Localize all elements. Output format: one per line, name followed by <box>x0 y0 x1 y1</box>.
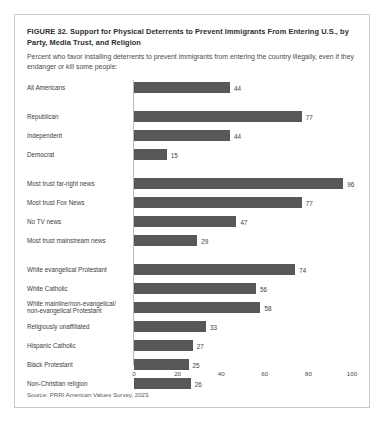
figure-card: FIGURE 32. Support for Physical Deterren… <box>14 14 370 408</box>
bar-category-label: Hispanic Catholic <box>27 342 129 350</box>
figure-subtitle: Percent who favor installing deterrents … <box>27 52 357 73</box>
bar-row: All Americans44 <box>27 80 361 96</box>
bar-value-label: 74 <box>299 266 306 273</box>
bar-category-label: Religiously unaffiliated <box>27 323 129 331</box>
bar-rows: All Americans44Republican77Independent44… <box>27 80 361 395</box>
bar-track: 15 <box>134 147 361 163</box>
x-axis-tick: 100 <box>347 370 357 377</box>
bar-value-label: 96 <box>347 180 354 187</box>
bar <box>134 283 256 294</box>
bar-track: 96 <box>134 176 361 192</box>
bar-row: Republican77 <box>27 109 361 125</box>
bar-category-label: No TV news <box>27 218 129 226</box>
bar <box>134 149 167 160</box>
bar-row: White mainline/non-evangelical/ non-evan… <box>27 300 361 316</box>
bar-row: Religiously unaffiliated33 <box>27 319 361 335</box>
bar-value-label: 47 <box>240 218 247 225</box>
bar-chart: All Americans44Republican77Independent44… <box>27 80 361 385</box>
bar-value-label: 27 <box>197 342 204 349</box>
bar-track: 58 <box>134 300 361 316</box>
bar-row: Independent44 <box>27 128 361 144</box>
plot-area: All Americans44Republican77Independent44… <box>27 80 361 365</box>
bar-track: 27 <box>134 338 361 354</box>
bar-value-label: 29 <box>201 237 208 244</box>
bar-row: No TV news47 <box>27 214 361 230</box>
bar <box>134 82 230 93</box>
bar-value-label: 56 <box>260 285 267 292</box>
bar-track: 29 <box>134 233 361 249</box>
bar-category-label: White Catholic <box>27 285 129 293</box>
bar-track: 77 <box>134 109 361 125</box>
bar <box>134 321 206 332</box>
bar-row: Most trust mainstream news29 <box>27 233 361 249</box>
bar <box>134 340 193 351</box>
bar-value-label: 33 <box>210 323 217 330</box>
bar-category-label: All Americans <box>27 84 129 92</box>
bar-value-label: 58 <box>264 304 271 311</box>
bar-category-label: Republican <box>27 113 129 121</box>
bar <box>134 302 260 313</box>
bar <box>134 130 230 141</box>
bar-row: White Catholic56 <box>27 281 361 297</box>
bar-track: 56 <box>134 281 361 297</box>
x-axis-tick: 20 <box>174 370 181 377</box>
source-note: Source: PRRI American Values Survey, 202… <box>27 391 150 398</box>
bar-category-label: White evangelical Protestant <box>27 266 129 274</box>
bar-category-label: Most trust Fox News <box>27 199 129 207</box>
bar-category-label: Independent <box>27 132 129 140</box>
x-axis-tick: 60 <box>261 370 268 377</box>
bar-row: Democrat15 <box>27 147 361 163</box>
bar-track: 77 <box>134 195 361 211</box>
bar-track: 74 <box>134 262 361 278</box>
bar <box>134 235 197 246</box>
bar <box>134 216 236 227</box>
bar-track: 44 <box>134 80 361 96</box>
bar <box>134 197 302 208</box>
bar-track: 33 <box>134 319 361 335</box>
figure-title: FIGURE 32. Support for Physical Deterren… <box>27 26 359 49</box>
bar <box>134 264 295 275</box>
bar-row: Most trust far-right news96 <box>27 176 361 192</box>
bar-category-label: Non-Christian religion <box>27 380 129 388</box>
bar-value-label: 44 <box>234 84 241 91</box>
bar-row: Most trust Fox News77 <box>27 195 361 211</box>
bar-row: White evangelical Protestant74 <box>27 262 361 278</box>
x-axis-tick: 0 <box>132 370 135 377</box>
x-axis-tick: 80 <box>305 370 312 377</box>
bar-value-label: 44 <box>234 132 241 139</box>
x-axis: 020406080100 <box>133 367 361 383</box>
bar-category-label: Most trust far-right news <box>27 180 129 188</box>
bar-category-label: White mainline/non-evangelical/ non-evan… <box>27 300 129 315</box>
bar-row: Hispanic Catholic27 <box>27 338 361 354</box>
bar <box>134 111 302 122</box>
bar-value-label: 77 <box>306 113 313 120</box>
bar-track: 47 <box>134 214 361 230</box>
bar-value-label: 77 <box>306 199 313 206</box>
bar-category-label: Black Protestant <box>27 361 129 369</box>
bar <box>134 178 343 189</box>
bar-category-label: Democrat <box>27 151 129 159</box>
bar-value-label: 15 <box>171 151 178 158</box>
bar-category-label: Most trust mainstream news <box>27 237 129 245</box>
x-axis-tick: 40 <box>218 370 225 377</box>
bar-track: 44 <box>134 128 361 144</box>
